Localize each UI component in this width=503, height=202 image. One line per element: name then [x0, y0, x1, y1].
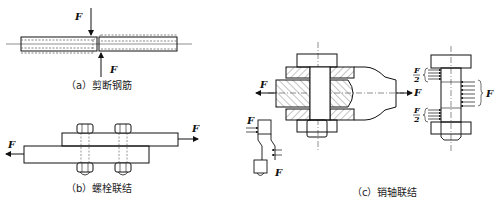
- panel-b-bolted-joint: F F: [6, 123, 200, 175]
- svg-text:F: F: [274, 167, 283, 178]
- panel-c-pin-free-body: F 2 F 2 F: [413, 46, 494, 152]
- panel-c-pin-joint: F F: [256, 42, 422, 150]
- svg-text:F: F: [259, 79, 268, 90]
- panel-c-sheared-pin-small: F F: [246, 115, 283, 178]
- svg-text:F: F: [7, 139, 16, 150]
- half-force-arrows-top: [428, 70, 441, 79]
- force-label: F: [109, 64, 118, 75]
- svg-text:2: 2: [413, 74, 420, 84]
- engineering-shear-diagram: F F F F: [0, 0, 503, 202]
- force-label: F: [74, 11, 83, 22]
- svg-text:F: F: [191, 123, 200, 134]
- caption-a: （a）剪断钢筋: [66, 77, 132, 92]
- svg-text:F: F: [485, 88, 494, 99]
- panel-a-shear-bar: F F: [6, 8, 192, 77]
- caption-c: （c）销轴联结: [352, 184, 418, 199]
- svg-text:F: F: [413, 87, 422, 98]
- caption-b: （b）螺栓联结: [66, 180, 132, 195]
- svg-text:2: 2: [413, 114, 420, 124]
- half-force-arrows-bottom: [428, 110, 441, 119]
- full-force-arrows-right: [461, 82, 475, 106]
- svg-text:F: F: [246, 115, 255, 126]
